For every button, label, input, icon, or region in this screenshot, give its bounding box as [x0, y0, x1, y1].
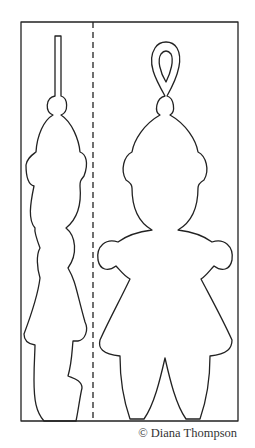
- full-doll-outline: [98, 42, 233, 419]
- template-illustration: [0, 0, 255, 448]
- hanging-loop-hole: [159, 51, 172, 82]
- half-doll-outline: [24, 36, 87, 421]
- template-frame: [21, 22, 238, 421]
- copyright-credit: © Diana Thompson: [138, 426, 237, 441]
